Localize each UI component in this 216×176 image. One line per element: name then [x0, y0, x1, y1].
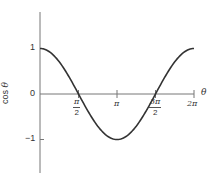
x-axis-label: θ	[201, 88, 206, 97]
y-tick-label-neg1: −1	[25, 134, 35, 143]
y-axis-label: cos θ	[0, 82, 10, 104]
cos-theta-plot: cos θ 1 0 −1 π 2 π 3π 2 2π θ	[0, 0, 216, 176]
x-tick-den: 2	[149, 108, 161, 117]
x-tick-label-2pi: 2π	[187, 100, 197, 108]
x-tick-num: π	[73, 98, 80, 108]
y-tick-label-0: 0	[30, 89, 35, 98]
y-tick-label-1: 1	[30, 43, 35, 52]
y-label-var: θ	[0, 82, 10, 87]
x-tick-den: 2	[73, 108, 80, 117]
x-tick-label-pi: π	[114, 100, 119, 108]
y-label-func: cos	[0, 90, 10, 104]
x-tick-num: 3π	[149, 98, 161, 108]
x-tick-label-3pi-over-2: 3π 2	[149, 98, 161, 117]
x-tick-label-pi-over-2: π 2	[73, 98, 80, 117]
